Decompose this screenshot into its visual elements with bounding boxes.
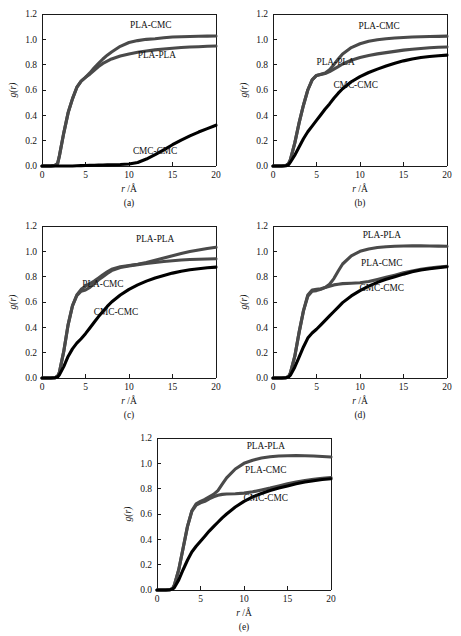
curve-cmc-cmc [42, 125, 216, 166]
y-tick-label: 0.8 [25, 60, 37, 70]
y-tick-label: 1.0 [256, 35, 268, 45]
curve-label-pla-cmc: PLA-CMC [245, 465, 286, 475]
y-tick-label: 1.2 [25, 221, 37, 231]
x-tick-label: 10 [124, 170, 134, 180]
figure-radial-distribution-functions: 051015200.00.20.40.60.81.01.2PLA-CMCPLA-… [0, 0, 461, 636]
y-axis-title: g(r) [8, 295, 19, 310]
x-tick-label: 0 [271, 382, 276, 392]
y-axis-title: g(r) [8, 83, 19, 98]
x-tick-label: 20 [211, 382, 221, 392]
y-tick-label: 0.4 [256, 323, 268, 333]
y-tick-label: 0.2 [140, 560, 152, 570]
x-tick-label: 20 [442, 170, 452, 180]
y-tick-label: 0.8 [25, 272, 37, 282]
curve-label-cmc-cmc: CMC-CMC [244, 493, 288, 503]
y-tick-label: 0.2 [25, 136, 37, 146]
panel-caption: (d) [354, 410, 365, 421]
x-tick-label: 10 [239, 594, 249, 604]
y-tick-label: 1.2 [25, 9, 37, 19]
x-axis-title: r /Å [236, 607, 252, 618]
y-tick-label: 0.6 [25, 85, 37, 95]
x-tick-label: 0 [40, 170, 45, 180]
y-tick-label: 0.0 [140, 585, 152, 595]
curve-label-pla-cmc: PLA-CMC [82, 279, 123, 289]
x-tick-label: 5 [314, 382, 319, 392]
x-tick-label: 15 [399, 170, 409, 180]
x-axis-title: r /Å [121, 183, 137, 194]
x-tick-label: 5 [198, 594, 203, 604]
x-tick-label: 15 [168, 170, 178, 180]
x-tick-label: 20 [211, 170, 221, 180]
y-axis-title: g(r) [239, 295, 250, 310]
x-tick-label: 20 [326, 594, 336, 604]
y-tick-label: 1.0 [25, 247, 37, 257]
y-tick-label: 0.6 [25, 297, 37, 307]
panel-a: 051015200.00.20.40.60.81.01.2PLA-CMCPLA-… [0, 0, 230, 212]
panel-c: 051015200.00.20.40.60.81.01.2PLA-PLAPLA-… [0, 212, 230, 424]
curve-label-pla-cmc: PLA-CMC [358, 21, 399, 31]
x-tick-label: 0 [155, 594, 160, 604]
curve-label-pla-pla: PLA-PLA [136, 234, 175, 244]
curve-label-cmc-cmc: CMC-CMC [133, 146, 177, 156]
y-tick-label: 0.4 [140, 535, 152, 545]
curve-label-pla-pla: PLA-PLA [247, 441, 286, 451]
x-tick-label: 15 [283, 594, 293, 604]
y-tick-label: 1.2 [256, 9, 268, 19]
y-tick-label: 0.4 [25, 323, 37, 333]
y-tick-label: 1.0 [256, 247, 268, 257]
x-axis-title: r /Å [352, 183, 368, 194]
panel-d: 051015200.00.20.40.60.81.01.2PLA-PLAPLA-… [231, 212, 461, 424]
y-tick-label: 0.8 [256, 60, 268, 70]
curve-cmc-cmc [273, 55, 447, 166]
panel-e: 051015200.00.20.40.60.81.01.2PLA-PLAPLA-… [115, 424, 345, 636]
x-tick-label: 10 [355, 382, 365, 392]
y-tick-label: 0.0 [256, 161, 268, 171]
curve-label-cmc-cmc: CMC-CMC [333, 80, 377, 90]
y-tick-label: 0.0 [25, 161, 37, 171]
panel-caption: (c) [124, 410, 135, 421]
panel-caption: (a) [124, 198, 135, 209]
y-tick-label: 1.0 [25, 35, 37, 45]
y-tick-label: 0.4 [25, 111, 37, 121]
y-tick-label: 0.2 [256, 136, 268, 146]
x-tick-label: 5 [314, 170, 319, 180]
curve-pla-cmc [42, 36, 216, 166]
curve-label-pla-pla: PLA-PLA [363, 230, 402, 240]
x-tick-label: 0 [271, 170, 276, 180]
curve-label-cmc-cmc: CMC-CMC [94, 307, 138, 317]
panel-caption: (b) [354, 198, 365, 209]
curve-label-pla-pla: PLA-PLA [138, 50, 177, 60]
y-tick-label: 0.0 [256, 373, 268, 383]
y-tick-label: 0.6 [256, 85, 268, 95]
curve-label-cmc-cmc: CMC-CMC [360, 283, 404, 293]
x-tick-label: 15 [168, 382, 178, 392]
x-tick-label: 10 [355, 170, 365, 180]
x-axis-title: r /Å [352, 395, 368, 406]
y-tick-label: 0.2 [256, 348, 268, 358]
y-axis-title: g(r) [239, 83, 250, 98]
y-tick-label: 0.6 [256, 297, 268, 307]
x-tick-label: 15 [399, 382, 409, 392]
y-tick-label: 1.2 [140, 433, 152, 443]
y-axis-title: g(r) [123, 507, 134, 522]
curve-pla-pla [42, 46, 216, 166]
x-tick-label: 20 [442, 382, 452, 392]
y-tick-label: 1.0 [140, 459, 152, 469]
x-tick-label: 0 [40, 382, 45, 392]
y-tick-label: 0.0 [25, 373, 37, 383]
x-tick-label: 5 [83, 170, 88, 180]
y-tick-label: 0.8 [140, 484, 152, 494]
y-tick-label: 0.6 [140, 509, 152, 519]
panel-b: 051015200.00.20.40.60.81.01.2PLA-CMCPLA-… [231, 0, 461, 212]
y-tick-label: 1.2 [256, 221, 268, 231]
curve-label-pla-cmc: PLA-CMC [361, 258, 402, 268]
x-axis-title: r /Å [121, 395, 137, 406]
y-tick-label: 0.2 [25, 348, 37, 358]
curve-label-pla-pla: PLA-PLA [317, 57, 356, 67]
panel-caption: (e) [239, 622, 250, 633]
y-tick-label: 0.8 [256, 272, 268, 282]
x-tick-label: 10 [124, 382, 134, 392]
curve-label-pla-cmc: PLA-CMC [130, 20, 171, 30]
y-tick-label: 0.4 [256, 111, 268, 121]
x-tick-label: 5 [83, 382, 88, 392]
